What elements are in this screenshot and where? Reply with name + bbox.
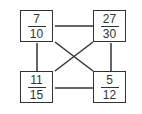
box-top-left: 7 10 <box>20 10 53 42</box>
box-bottom-right: 5 12 <box>93 71 126 103</box>
numerator: 5 <box>101 74 119 88</box>
fraction: 27 30 <box>101 13 119 40</box>
numerator: 7 <box>28 13 46 27</box>
fraction: 5 12 <box>101 74 119 101</box>
numerator: 11 <box>28 74 46 88</box>
box-bottom-left: 11 15 <box>20 71 53 103</box>
fraction: 11 15 <box>28 74 46 101</box>
denominator: 12 <box>103 88 116 101</box>
fraction: 7 10 <box>28 13 46 40</box>
box-top-right: 27 30 <box>93 10 126 42</box>
denominator: 15 <box>30 88 43 101</box>
denominator: 30 <box>103 27 116 40</box>
denominator: 10 <box>30 27 43 40</box>
numerator: 27 <box>101 13 119 27</box>
